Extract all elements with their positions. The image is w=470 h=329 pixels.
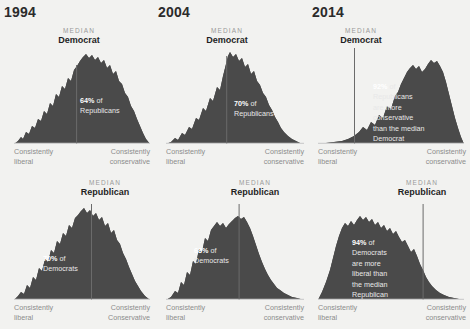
callout-suffix: of bbox=[94, 96, 102, 105]
callout-text: 70% of Democrats bbox=[43, 254, 78, 275]
panel-1994-democrats: MEDIAN Republican 70% of Democrats Consi… bbox=[4, 170, 154, 328]
callout-line-4: conservative bbox=[373, 113, 425, 123]
axis-right-line1: Consistently bbox=[110, 147, 150, 157]
axis-label-left: Consistently liberal bbox=[318, 303, 357, 322]
axis-right-line1: Consistently bbox=[426, 147, 466, 157]
callout-suffix: of bbox=[248, 99, 256, 108]
axis-left-line1: Consistently bbox=[166, 303, 205, 313]
axis-left-line2: liberal bbox=[14, 157, 53, 167]
callout-value: 94% bbox=[352, 238, 366, 247]
callout-line-2: Democrats bbox=[194, 256, 229, 266]
axis-label-right: Consistently conservative bbox=[264, 147, 304, 166]
axis-left-line2: liberal bbox=[166, 313, 205, 323]
median-party: Democrat bbox=[306, 36, 416, 45]
callout-suffix: of bbox=[387, 82, 395, 91]
callout-text: 94% of Democrats are more liberal than t… bbox=[352, 238, 388, 301]
callout-value: 70% bbox=[43, 254, 57, 263]
median-marker-label: MEDIAN Democrat bbox=[172, 28, 282, 45]
median-party: Republican bbox=[376, 188, 468, 197]
year-label: 1994 bbox=[4, 4, 36, 20]
axis-left-line1: Consistently bbox=[166, 147, 205, 157]
axis-right-line2: conservative bbox=[110, 157, 150, 167]
callout-value: 92% bbox=[373, 82, 387, 91]
axis-label-right: Consistently Conservative bbox=[108, 303, 150, 322]
median-party: Democrat bbox=[172, 36, 282, 45]
axis-left-line2: liberal bbox=[318, 313, 357, 323]
polarization-chart-grid: 1994 MEDIAN Democrat 64% of Republicans bbox=[0, 0, 470, 329]
callout-line-2: Democrats bbox=[43, 264, 78, 274]
median-word: MEDIAN bbox=[306, 28, 416, 35]
median-marker-label: MEDIAN Democrat bbox=[24, 28, 134, 45]
panel-1994-republicans: 1994 MEDIAN Democrat 64% of Republicans bbox=[4, 4, 154, 166]
callout-suffix: of bbox=[57, 254, 65, 263]
axis-right-line2: conservative bbox=[426, 313, 466, 323]
callout-suffix: of bbox=[366, 238, 374, 247]
callout-line-2: Republicans bbox=[80, 106, 120, 116]
axis-label-right: Consistently conservative bbox=[426, 147, 466, 166]
panel-2004-republicans: 2004 MEDIAN Democrat 70% of Republicans bbox=[158, 4, 308, 166]
panel-2004-democrats: MEDIAN Republican 68% of Democrats Consi… bbox=[158, 170, 308, 328]
median-word: MEDIAN bbox=[24, 28, 134, 35]
callout-line-5: the median bbox=[352, 280, 388, 290]
callout-value: 64% bbox=[80, 96, 94, 105]
axis-right-line2: Conservative bbox=[108, 313, 150, 323]
axis-left-line1: Consistently bbox=[14, 303, 53, 313]
median-marker-label: MEDIAN Democrat bbox=[306, 28, 416, 45]
callout-line-4: liberal than bbox=[352, 269, 388, 279]
median-party: Republican bbox=[200, 188, 310, 197]
callout-text: 64% of Republicans bbox=[80, 96, 120, 117]
median-word: MEDIAN bbox=[50, 180, 160, 187]
callout-line-2: Republicans bbox=[373, 92, 425, 102]
callout-value: 68% bbox=[194, 246, 208, 255]
callout-line-2: Democrats bbox=[352, 248, 388, 258]
axis-right-line2: conservative bbox=[426, 157, 466, 167]
axis-left-line2: liberal bbox=[318, 157, 357, 167]
callout-line-6: Democrat bbox=[373, 134, 425, 144]
year-label: 2004 bbox=[158, 4, 190, 20]
axis-label-right: Consistently conservative bbox=[110, 147, 150, 166]
median-marker-label: MEDIAN Republican bbox=[200, 180, 310, 197]
axis-right-line2: conservative bbox=[264, 313, 304, 323]
axis-left-line1: Consistently bbox=[318, 303, 357, 313]
axis-right-line1: Consistently bbox=[264, 147, 304, 157]
callout-text: 70% of Republicans bbox=[234, 99, 274, 120]
axis-label-right: Consistently conservative bbox=[264, 303, 304, 322]
axis-label-left: Consistently liberal bbox=[14, 147, 53, 166]
median-party: Republican bbox=[50, 188, 160, 197]
distribution-curve bbox=[318, 204, 464, 300]
distribution-curve bbox=[166, 204, 304, 300]
axis-label-left: Consistently liberal bbox=[318, 147, 357, 166]
axis-left-line1: Consistently bbox=[318, 147, 357, 157]
callout-text: 68% of Democrats bbox=[194, 246, 229, 267]
axis-label-left: Consistently liberal bbox=[166, 147, 205, 166]
distribution-curve bbox=[14, 204, 150, 300]
panel-2014-republicans: 2014 MEDIAN Democrat 92% of Republicans … bbox=[312, 4, 468, 166]
axis-label-right: Consistently conservative bbox=[426, 303, 466, 322]
callout-line-3: are more bbox=[352, 259, 388, 269]
panel-2014-democrats: MEDIAN Republican 94% of Democrats are m… bbox=[312, 170, 468, 328]
axis-right-line1: Consistently bbox=[108, 303, 150, 313]
axis-label-left: Consistently liberal bbox=[166, 303, 205, 322]
median-party: Democrat bbox=[24, 36, 134, 45]
callout-value: 70% bbox=[234, 99, 248, 108]
axis-right-line1: Consistently bbox=[264, 303, 304, 313]
axis-left-line2: liberal bbox=[166, 157, 205, 167]
callout-suffix: of bbox=[208, 246, 216, 255]
axis-left-line2: liberal bbox=[14, 313, 53, 323]
axis-label-left: Consistently liberal bbox=[14, 303, 53, 322]
distribution-curve bbox=[166, 48, 304, 144]
median-word: MEDIAN bbox=[172, 28, 282, 35]
callout-text: 92% of Republicans are more conservative… bbox=[373, 82, 425, 145]
median-marker-label: MEDIAN Republican bbox=[50, 180, 160, 197]
axis-right-line1: Consistently bbox=[426, 303, 466, 313]
callout-line-2: Republicans bbox=[234, 109, 274, 119]
axis-left-line1: Consistently bbox=[14, 147, 53, 157]
callout-line-6: Republican bbox=[352, 290, 388, 300]
axis-right-line2: conservative bbox=[264, 157, 304, 167]
year-label: 2014 bbox=[312, 4, 344, 20]
median-word: MEDIAN bbox=[376, 180, 468, 187]
callout-line-3: are more bbox=[373, 103, 425, 113]
median-word: MEDIAN bbox=[200, 180, 310, 187]
callout-line-5: than the median bbox=[373, 124, 425, 134]
median-marker-label: MEDIAN Republican bbox=[376, 180, 468, 197]
